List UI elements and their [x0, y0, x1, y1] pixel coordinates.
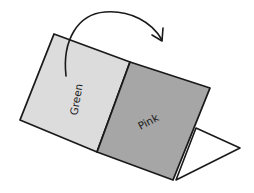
diagram-canvas: Green Pink — [0, 0, 254, 193]
folded-card-diagram: Green Pink — [0, 0, 254, 193]
